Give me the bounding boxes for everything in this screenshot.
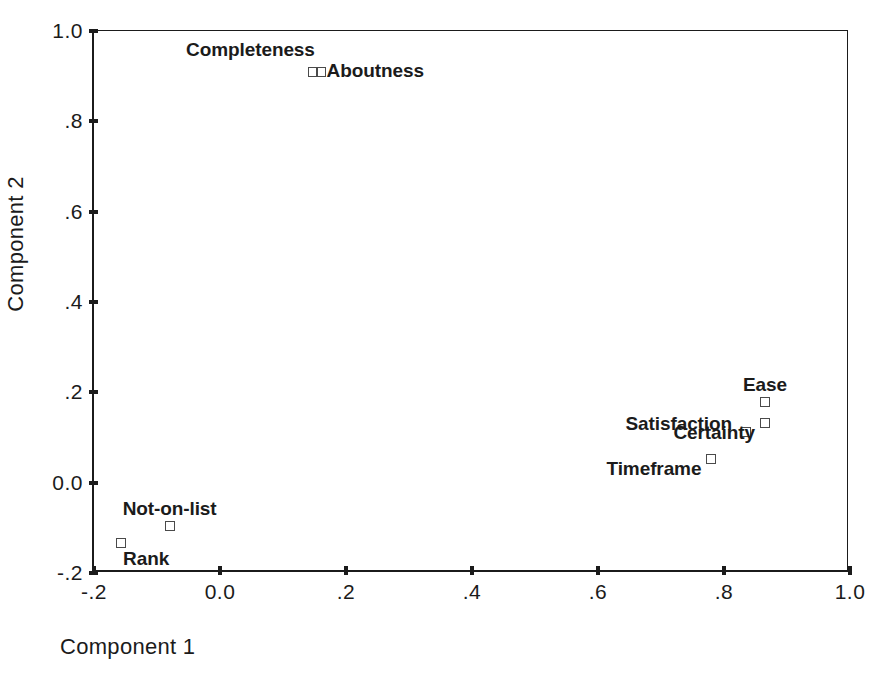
- data-point-marker: [760, 397, 770, 407]
- data-point-marker: [760, 418, 770, 428]
- data-point-label: Completeness: [186, 39, 315, 61]
- x-axis-tick-label: 0.0: [205, 580, 236, 604]
- x-axis-tick: [218, 566, 222, 575]
- data-point-label: Rank: [123, 548, 169, 570]
- x-axis-tick: [344, 566, 348, 575]
- y-axis-tick-label: 1.0: [52, 19, 83, 43]
- y-axis-tick-label: .4: [64, 290, 83, 314]
- x-axis-tick-label: .4: [463, 580, 482, 604]
- y-axis-tick: [89, 210, 98, 214]
- x-axis-tick-label: 1.0: [835, 580, 866, 604]
- data-point-marker: [116, 538, 126, 548]
- x-axis-tick-label: .6: [589, 580, 608, 604]
- y-axis-tick-label: .6: [64, 200, 83, 224]
- y-axis-tick: [89, 481, 98, 485]
- plot-area: -.20.0.2.4.6.81.0-.20.0.2.4.6.81.0Aboutn…: [92, 30, 848, 572]
- y-axis-tick-label: .8: [64, 109, 83, 133]
- data-point-marker: [165, 521, 175, 531]
- chart-title-cropped: [0, 0, 876, 8]
- x-axis-tick: [470, 566, 474, 575]
- y-axis-tick-label: -.2: [57, 561, 83, 585]
- x-axis-title: Component 1: [60, 634, 195, 660]
- x-axis-tick-label: .8: [715, 580, 734, 604]
- data-point-label: Ease: [743, 374, 787, 396]
- y-axis-title: Component 2: [3, 134, 29, 354]
- y-axis-tick: [89, 119, 98, 123]
- y-axis-tick: [89, 29, 98, 33]
- data-point-label: Certainty: [673, 422, 754, 444]
- data-point-label: Aboutness: [327, 60, 424, 82]
- x-axis-tick: [848, 566, 852, 575]
- y-axis-tick-label: .2: [64, 380, 83, 404]
- data-point-label: Not-on-list: [123, 498, 217, 520]
- x-axis-tick: [722, 566, 726, 575]
- y-axis-tick-label: 0.0: [52, 471, 83, 495]
- scatter-plot-figure: -.20.0.2.4.6.81.0-.20.0.2.4.6.81.0Aboutn…: [0, 0, 876, 684]
- x-axis-tick-label: .2: [337, 580, 356, 604]
- data-point-marker: [316, 67, 326, 77]
- x-axis-tick: [596, 566, 600, 575]
- data-point-marker: [706, 454, 716, 464]
- data-point-label: Timeframe: [607, 458, 702, 480]
- y-axis-tick: [89, 390, 98, 394]
- x-axis-tick-label: -.2: [81, 580, 107, 604]
- x-axis-tick: [92, 566, 96, 575]
- y-axis-tick: [89, 300, 98, 304]
